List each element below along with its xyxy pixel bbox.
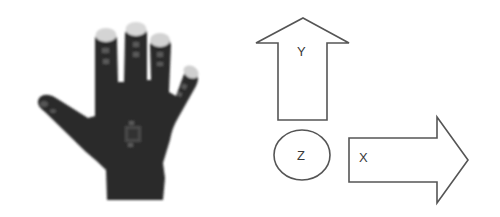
y-axis-arrow-icon [256,18,349,120]
figure-canvas: Y Z X [0,0,500,217]
y-axis-label: Y [297,45,306,58]
z-axis-label: Z [297,149,305,162]
x-axis-label: X [359,151,368,164]
axes-graphic [0,0,500,217]
